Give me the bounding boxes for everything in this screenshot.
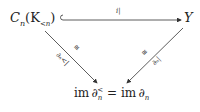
arrow-left bbox=[45, 31, 97, 83]
node-target: Y bbox=[184, 10, 193, 25]
edge-label-top: i| bbox=[116, 7, 121, 15]
node-source: Cn(K<n) bbox=[10, 10, 55, 28]
hook-icon bbox=[61, 15, 64, 20]
node-bottom: im ∂n< = im ∂n bbox=[74, 86, 149, 102]
